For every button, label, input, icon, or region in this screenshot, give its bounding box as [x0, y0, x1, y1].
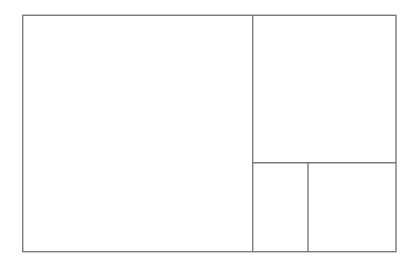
- rectangle-subdivision-diagram: [0, 0, 415, 265]
- region-bottom-right-left: [253, 163, 308, 252]
- region-top-right: [253, 15, 396, 162]
- region-large-left: [23, 15, 253, 251]
- regions: [23, 15, 396, 251]
- region-bottom-right-right: [308, 163, 396, 252]
